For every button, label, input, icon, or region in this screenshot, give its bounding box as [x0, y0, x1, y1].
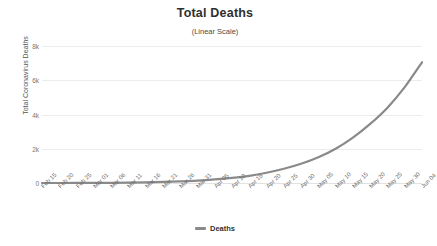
y-axis-tick-labels: 8k6k4k2k0 [0, 46, 39, 183]
deaths-line-path [42, 62, 422, 183]
y-axis-tick-label: 6k [3, 77, 39, 84]
plot-area [42, 46, 422, 183]
chart-title: Total Deaths [0, 6, 430, 20]
y-axis-tick-label: 4k [3, 111, 39, 118]
x-axis-tick-labels: Feb 15Feb 20Feb 25Mar 01Mar 06Mar 11Mar … [42, 185, 422, 219]
deaths-line-series [42, 46, 422, 183]
chart-legend: Deaths [0, 224, 430, 233]
x-axis-tick-label: Jun 04 [420, 172, 437, 189]
y-axis-tick-label: 0 [3, 180, 39, 187]
legend-label-deaths: Deaths [210, 224, 235, 233]
chart-subtitle: (Linear Scale) [0, 27, 430, 36]
y-axis-tick-label: 8k [3, 43, 39, 50]
legend-marker-deaths [195, 227, 206, 230]
y-axis-tick-label: 2k [3, 145, 39, 152]
